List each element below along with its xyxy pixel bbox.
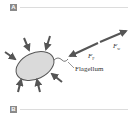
divider-b bbox=[20, 109, 128, 110]
bacterium-body bbox=[11, 46, 58, 86]
bacterium-diagram bbox=[0, 0, 128, 118]
flagellum bbox=[54, 58, 68, 61]
force-w-label: Fw bbox=[113, 42, 120, 51]
force-f-label: FF bbox=[88, 52, 95, 61]
force-w-arrow bbox=[100, 31, 126, 42]
panel-label-b: B bbox=[10, 106, 17, 113]
flagellum-label: Flagellum bbox=[75, 65, 103, 73]
